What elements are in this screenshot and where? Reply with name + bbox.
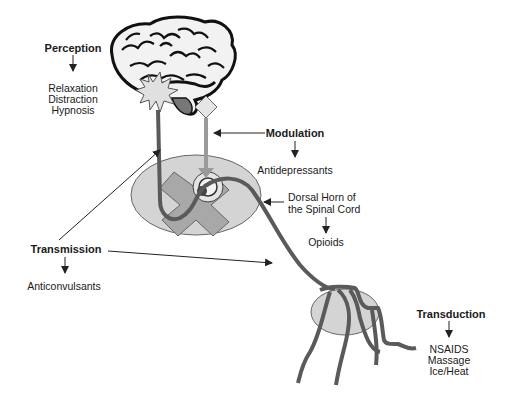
transduction-title: Transduction [414, 308, 488, 320]
modulation-title: Modulation [262, 127, 328, 139]
dorsal-horn-label-line1: Dorsal Horn of [288, 191, 364, 203]
transduction-intervention: Ice/Heat [420, 365, 478, 377]
transmission-title: Transmission [28, 243, 104, 255]
pain-pathway-diagram: Perception Relaxation Distraction Hypnos… [0, 0, 509, 399]
diagram-artwork [0, 0, 509, 399]
perception-title: Perception [40, 42, 106, 54]
dorsal-horn-intervention: Opioids [300, 236, 352, 248]
perception-intervention: Hypnosis [40, 104, 106, 116]
dorsal-horn-label-line2: the Spinal Cord [288, 203, 368, 215]
brain-icon [112, 17, 236, 114]
transmission-intervention: Anticonvulsants [24, 280, 104, 292]
modulation-intervention: Antidepressants [252, 164, 338, 176]
